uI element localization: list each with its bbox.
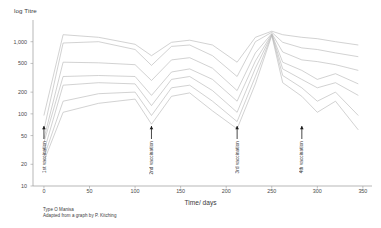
x-tick-label: 0	[32, 188, 56, 194]
y-tick-label: 500	[5, 60, 27, 66]
caption-line-1: Type O Manisa	[43, 207, 74, 212]
x-tick-label: 50	[78, 188, 102, 194]
series-line	[44, 32, 358, 130]
y-tick-label: 1,000	[5, 39, 27, 45]
series-line	[44, 34, 358, 139]
series-group	[44, 31, 358, 161]
y-tick-label: 10	[5, 183, 27, 189]
y-tick-label: 20	[5, 161, 27, 167]
arrow-head	[300, 126, 304, 129]
series-line	[44, 35, 358, 157]
vaccination-label: 1st vaccination	[42, 141, 47, 173]
vaccination-label: 4th vaccination	[299, 141, 304, 173]
caption-line-2: Adapted from a graph by P. Kitching	[43, 213, 116, 218]
vaccination-label: 3rd vaccination	[235, 141, 240, 173]
y-tick-label: 100	[5, 111, 27, 117]
x-tick-label: 250	[260, 188, 284, 194]
arrow-head	[150, 126, 154, 129]
y-tick-label: 200	[5, 89, 27, 95]
x-tick-label: 150	[169, 188, 193, 194]
vaccination-arrows	[42, 126, 303, 139]
y-tick-label: 50	[5, 133, 27, 139]
x-tick-label: 200	[214, 188, 238, 194]
vaccination-label: 2nd vaccination	[149, 141, 154, 174]
x-tick-label: 350	[351, 188, 375, 194]
arrow-head	[42, 126, 46, 129]
series-line	[44, 31, 358, 115]
chart-root: log Titre Time/ days 1,00050020010050201…	[0, 0, 381, 228]
series-line	[44, 36, 358, 162]
x-tick-label: 300	[305, 188, 329, 194]
x-tick-label: 100	[123, 188, 147, 194]
